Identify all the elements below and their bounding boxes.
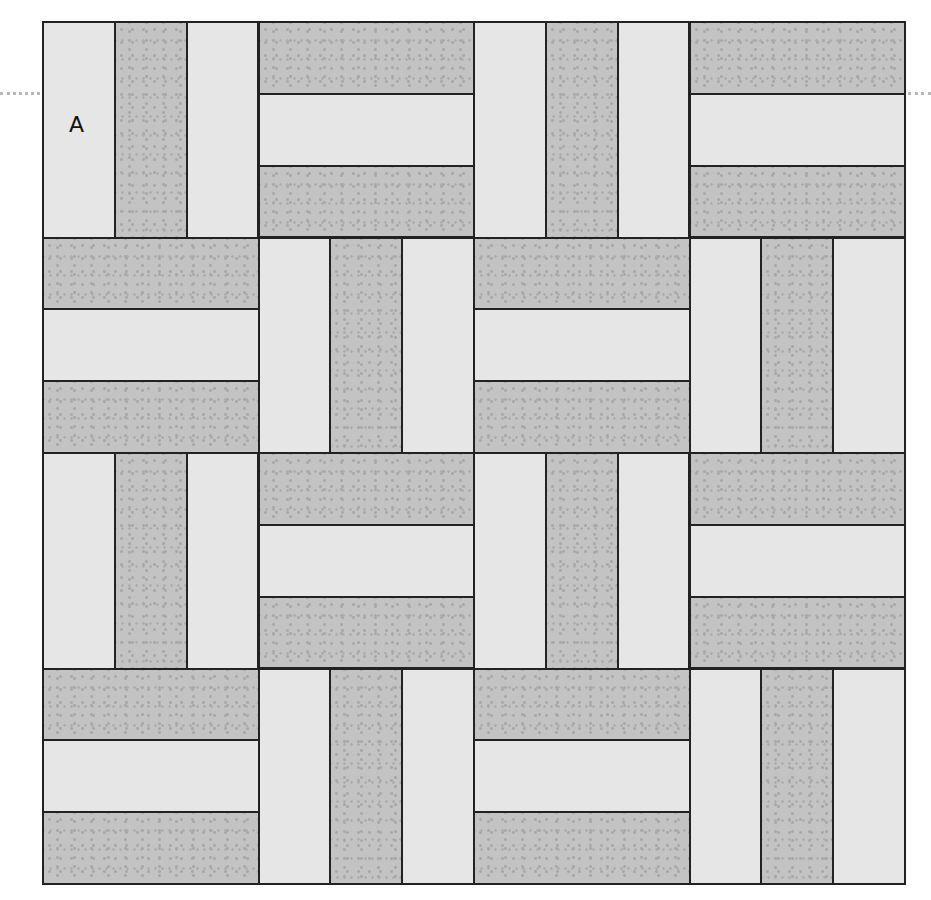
block-label: A <box>69 112 84 137</box>
light-strip <box>402 238 474 454</box>
light-strip <box>43 740 259 812</box>
dark-strip <box>761 669 833 885</box>
light-strip <box>690 525 906 597</box>
dark-strip <box>330 669 402 885</box>
quilt-block-r3-c2 <box>259 453 475 669</box>
dark-strip <box>474 669 690 741</box>
dark-strip <box>690 597 906 669</box>
light-strip <box>402 669 474 885</box>
dark-strip <box>43 381 259 453</box>
dark-strip <box>115 22 187 238</box>
light-strip <box>187 453 259 669</box>
quilt-block-r1-c2 <box>259 22 475 238</box>
light-strip <box>43 309 259 381</box>
quilt-block-r2-c1 <box>43 238 259 454</box>
dark-strip <box>546 22 618 238</box>
light-strip <box>690 94 906 166</box>
placement-guide-right <box>908 92 931 95</box>
light-strip <box>43 453 115 669</box>
light-strip <box>618 453 690 669</box>
dark-strip <box>115 453 187 669</box>
quilt-grid: A <box>42 21 906 885</box>
light-strip <box>259 525 475 597</box>
dark-strip <box>43 812 259 884</box>
quilt-block-r3-c1 <box>43 453 259 669</box>
quilt-block-r4-c1 <box>43 669 259 885</box>
quilt-block-r3-c4 <box>690 453 906 669</box>
light-strip <box>618 22 690 238</box>
dark-strip <box>546 453 618 669</box>
dark-strip <box>259 597 475 669</box>
quilt-block-r1-c3 <box>474 22 690 238</box>
quilt-block-r3-c3 <box>474 453 690 669</box>
light-strip <box>690 669 762 885</box>
light-strip <box>259 238 331 454</box>
placement-guide-left <box>0 92 40 95</box>
quilt-block-r4-c4 <box>690 669 906 885</box>
dark-strip <box>474 238 690 310</box>
quilt-block-r2-c3 <box>474 238 690 454</box>
dark-strip <box>474 381 690 453</box>
light-strip <box>259 94 475 166</box>
light-strip <box>833 238 905 454</box>
dark-strip <box>259 22 475 94</box>
light-strip <box>187 22 259 238</box>
dark-strip <box>690 453 906 525</box>
quilt-block-r2-c2 <box>259 238 475 454</box>
light-strip <box>474 22 546 238</box>
quilt-block-r4-c3 <box>474 669 690 885</box>
dark-strip <box>330 238 402 454</box>
dark-strip <box>259 166 475 238</box>
dark-strip <box>43 238 259 310</box>
dark-strip <box>690 166 906 238</box>
light-strip <box>690 238 762 454</box>
quilt-block-r1-c4 <box>690 22 906 238</box>
quilt-block-r1-c1: A <box>43 22 259 238</box>
dark-strip <box>690 22 906 94</box>
light-strip <box>474 453 546 669</box>
dark-strip <box>43 669 259 741</box>
light-strip <box>833 669 905 885</box>
quilt-block-r4-c2 <box>259 669 475 885</box>
dark-strip <box>259 453 475 525</box>
light-strip <box>474 740 690 812</box>
dark-strip <box>761 238 833 454</box>
quilt-block-r2-c4 <box>690 238 906 454</box>
light-strip <box>474 309 690 381</box>
dark-strip <box>474 812 690 884</box>
light-strip <box>259 669 331 885</box>
